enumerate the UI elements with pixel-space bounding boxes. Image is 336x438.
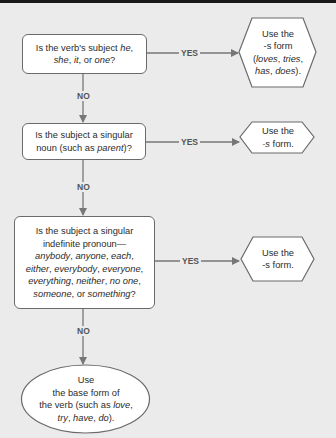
yes-label-1: YES — [179, 48, 200, 58]
yes-label-2: YES — [179, 137, 200, 147]
question-box-3: Is the subject a singularindefinite pron… — [14, 216, 155, 309]
question-text-1: Is the verb's subject he,she, it, or one… — [30, 42, 139, 67]
question-box-1: Is the verb's subject he,she, it, or one… — [22, 34, 147, 74]
outcome-text-1: Use the-s form(loves, tries,has, does). — [242, 18, 314, 87]
outcome-text-3: Use the-s form. — [243, 237, 313, 281]
no-label-2: NO — [75, 182, 92, 192]
no-label-3: NO — [75, 326, 92, 336]
outcome-text-2: Use the-s form. — [243, 122, 313, 153]
question-text-3: Is the subject a singularindefinite pron… — [23, 225, 146, 300]
yes-label-3: YES — [180, 256, 201, 266]
question-text-2: Is the subject a singularnoun (such as p… — [29, 129, 139, 154]
no-label-1: NO — [75, 91, 92, 101]
question-box-2: Is the subject a singularnoun (such as p… — [22, 123, 146, 160]
final-text: Usethe base form ofthe verb (such as lov… — [22, 366, 150, 432]
